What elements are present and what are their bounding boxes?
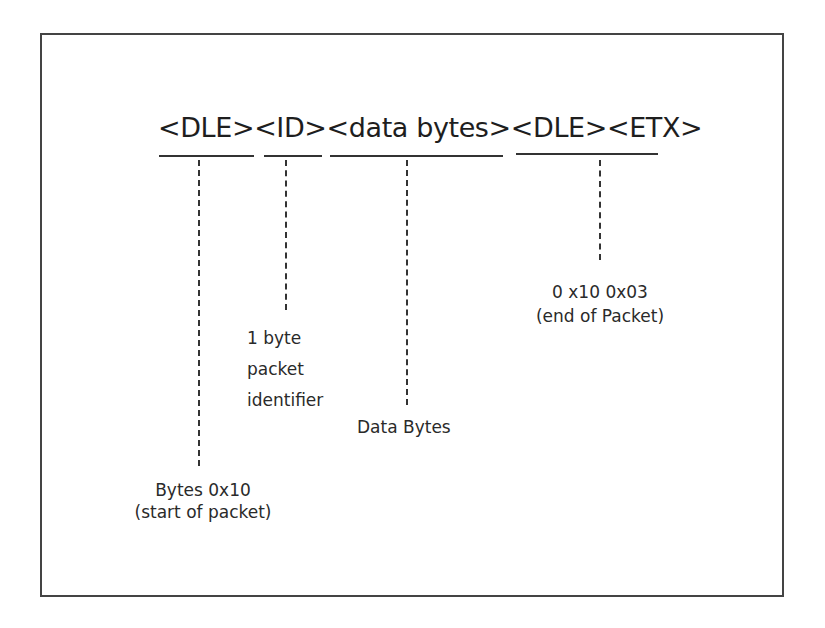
underline-dle-etx [516,153,658,155]
label-line: (end of Packet) [515,304,685,328]
connector-dle-etx [599,160,601,260]
label-line: 0 x10 0x03 [515,280,685,304]
label-line: (start of packet) [118,501,288,523]
label-line: Bytes 0x10 [118,479,288,501]
underline-data-bytes [330,155,503,157]
connector-id [285,160,287,310]
label-data-bytes: Data Bytes [357,416,451,438]
connector-dle-start [198,160,200,466]
packet-format-header: <DLE><ID><data bytes><DLE><ETX> [158,112,702,143]
underline-dle-start [159,155,254,157]
underline-id [264,155,322,157]
label-line: 1 byte [247,323,323,354]
label-line: Data Bytes [357,416,451,438]
connector-data-bytes [406,160,408,405]
label-end-of-packet: 0 x10 0x03 (end of Packet) [515,280,685,328]
label-line: packet [247,354,323,385]
label-packet-identifier: 1 byte packet identifier [247,323,323,416]
label-start-of-packet: Bytes 0x10 (start of packet) [118,479,288,523]
label-line: identifier [247,385,323,416]
